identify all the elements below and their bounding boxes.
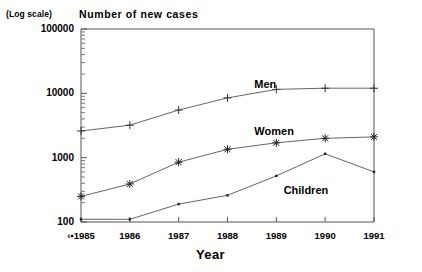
data-point-children [80, 218, 82, 220]
x-tick-label: 1991 [344, 230, 404, 241]
y-tick-label: 100000 [2, 23, 74, 34]
data-point-men [370, 84, 378, 92]
data-series-layer [77, 84, 378, 220]
y-axis-ticks [81, 29, 87, 222]
data-point-men [224, 94, 232, 102]
data-point-men [77, 127, 85, 135]
data-point-women [224, 145, 232, 153]
x-axis-title: Year [196, 247, 225, 262]
y-tick-label: 1000 [2, 152, 74, 163]
chart-figure: (Log scale) Number of new cases 10000010… [0, 0, 422, 272]
data-point-women [175, 158, 183, 166]
data-point-women [126, 180, 134, 188]
data-point-men [126, 121, 134, 129]
data-point-women [272, 139, 280, 147]
data-point-men [321, 84, 329, 92]
data-point-women [370, 133, 378, 141]
y-tick-label: 10000 [2, 87, 74, 98]
series-label-children: Children [284, 184, 329, 196]
series-label-women: Women [254, 125, 294, 137]
data-point-children [177, 203, 179, 205]
series-label-men: Men [254, 78, 276, 90]
data-point-men [175, 106, 183, 114]
y-tick-label: 100 [2, 216, 74, 227]
data-point-women [77, 192, 85, 200]
data-point-children [324, 153, 326, 155]
data-point-women [321, 134, 329, 142]
data-point-children [129, 218, 131, 220]
data-point-children [226, 194, 228, 196]
data-point-children [373, 171, 375, 173]
data-point-children [275, 175, 277, 177]
